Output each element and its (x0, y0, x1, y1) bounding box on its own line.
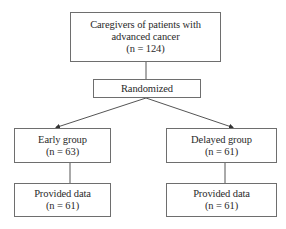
population-line1: Caregivers of patients with (90, 19, 201, 31)
delayed-group-box: Delayed group (n = 61) (166, 128, 277, 163)
delayed-provided-data-box: Provided data (n = 61) (166, 183, 277, 217)
arrow-randomized-to-early (56, 98, 146, 128)
population-line2: advanced cancer (111, 31, 179, 43)
early-provided-count: (n = 61) (46, 200, 79, 212)
population-count: (n = 124) (126, 43, 164, 55)
randomized-box: Randomized (93, 79, 201, 98)
delayed-group-count: (n = 61) (205, 146, 238, 158)
delayed-provided-count: (n = 61) (205, 200, 238, 212)
early-group-label: Early group (38, 134, 87, 146)
delayed-provided-label: Provided data (193, 188, 250, 200)
delayed-group-label: Delayed group (191, 134, 252, 146)
arrow-randomized-to-delayed (146, 98, 233, 128)
early-group-box: Early group (n = 63) (14, 128, 111, 163)
early-provided-data-box: Provided data (n = 61) (14, 183, 111, 217)
randomized-label: Randomized (121, 83, 173, 95)
population-box: Caregivers of patients with advanced can… (70, 12, 221, 62)
early-provided-label: Provided data (34, 188, 91, 200)
early-group-count: (n = 63) (46, 146, 79, 158)
